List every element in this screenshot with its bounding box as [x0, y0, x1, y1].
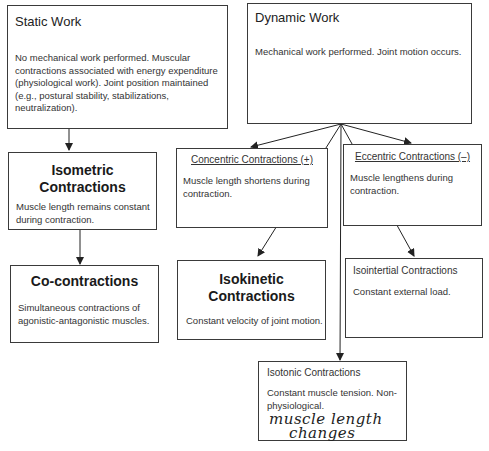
- isotonic-title: Isotonic Contractions: [267, 367, 360, 378]
- dynamic-work-description: Mechanical work performed. Joint motion …: [255, 46, 465, 59]
- isotonic-contractions-box: Isotonic Contractions Constant muscle te…: [258, 361, 407, 441]
- eccentric-title: Eccentric Contractions (–): [344, 151, 481, 162]
- isometric-description: Muscle length remains constant during co…: [16, 201, 154, 226]
- isointertial-description: Constant external load.: [353, 286, 478, 299]
- eccentric-contractions-box: Eccentric Contractions (–) Muscle length…: [343, 144, 482, 226]
- isokinetic-description: Constant velocity of joint motion.: [186, 315, 324, 328]
- isotonic-description: Constant muscle tension. Non-physiologic…: [267, 387, 402, 412]
- eccentric-description: Muscle lengthens during contraction.: [350, 172, 478, 197]
- isometric-title: Isometric Contractions: [29, 162, 136, 196]
- co-contractions-title: Co-contractions: [11, 273, 158, 290]
- concentric-description: Muscle length shortens during contractio…: [183, 175, 323, 200]
- isointertial-title: Isointertial Contractions: [353, 265, 458, 276]
- concentric-title: Concentric Contractions (+): [177, 154, 327, 165]
- co-contractions-box: Co-contractions Simultaneous contraction…: [10, 265, 159, 343]
- isokinetic-contractions-box: Isokinetic Contractions Constant velocit…: [177, 260, 326, 340]
- dynamic-work-box: Dynamic Work Mechanical work performed. …: [247, 3, 472, 124]
- isometric-contractions-box: Isometric Contractions Muscle length rem…: [8, 152, 157, 230]
- static-work-title: Static Work: [15, 14, 81, 29]
- dynamic-work-title: Dynamic Work: [255, 10, 339, 25]
- co-contractions-description: Simultaneous contractions of agonistic-a…: [18, 302, 156, 327]
- isokinetic-title: Isokinetic Contractions: [198, 271, 305, 305]
- static-work-description: No mechanical work performed. Muscular c…: [15, 52, 220, 115]
- handwritten-note-line2: changes: [289, 426, 355, 441]
- isointertial-contractions-box: Isointertial Contractions Constant exter…: [345, 258, 483, 338]
- concentric-contractions-box: Concentric Contractions (+) Muscle lengt…: [176, 148, 328, 228]
- static-work-box: Static Work No mechanical work performed…: [7, 5, 228, 129]
